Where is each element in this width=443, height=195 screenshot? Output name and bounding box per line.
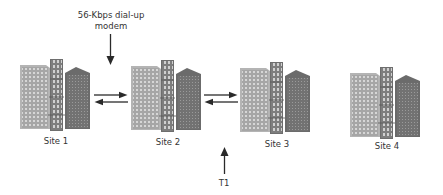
link-site2-site3-bidirectional-arrow-icon <box>204 91 238 106</box>
t1-label: T1 <box>212 178 236 188</box>
office-buildings-icon <box>350 67 422 140</box>
modem-label-line2: modem <box>63 21 159 32</box>
site-2-label: Site 2 <box>148 137 188 147</box>
site-4 <box>350 67 424 143</box>
modem-pointer-arrow-icon <box>106 34 115 66</box>
modem-annotation: 56-Kbps dial-up modem <box>63 10 159 32</box>
office-buildings-icon <box>20 59 92 132</box>
site-3-label: Site 3 <box>257 139 297 149</box>
site-1-label: Site 1 <box>36 136 76 146</box>
site-1 <box>20 59 94 135</box>
t1-pointer-arrow-icon <box>220 147 229 174</box>
site-3 <box>240 62 314 138</box>
site-4-label: Site 4 <box>367 141 407 151</box>
office-buildings-icon <box>131 60 203 133</box>
office-buildings-icon <box>240 62 312 135</box>
modem-label-line1: 56-Kbps dial-up <box>63 10 159 21</box>
link-site1-site2-bidirectional-arrow-icon <box>94 91 128 106</box>
site-2 <box>131 60 205 136</box>
